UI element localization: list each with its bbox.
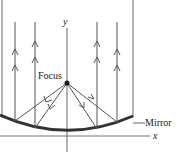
- focus-point: [65, 81, 70, 86]
- reflected-rays: [12, 22, 120, 129]
- x-axis-label: x: [153, 131, 157, 141]
- y-axis-label: y: [63, 17, 67, 27]
- focus-label: Focus: [38, 71, 62, 81]
- mirror-label: Mirror: [145, 118, 172, 128]
- parabolic-mirror-diagram: y Focus Mirror x: [0, 0, 177, 152]
- incident-rays: [15, 83, 117, 129]
- diagram-canvas: [0, 0, 177, 152]
